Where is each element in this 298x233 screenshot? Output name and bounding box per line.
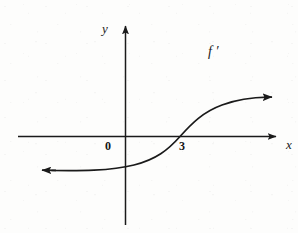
f-prime-curve-label: f ′ <box>208 45 218 59</box>
f-prime-curve <box>52 97 268 170</box>
y-axis-label: y <box>102 22 108 35</box>
math-figure: y x 0 3 f ′ <box>0 0 298 233</box>
x-axis-label: x <box>286 138 292 151</box>
origin-label: 0 <box>105 140 111 152</box>
graph-canvas <box>0 0 298 233</box>
x-intercept-label: 3 <box>179 140 185 152</box>
